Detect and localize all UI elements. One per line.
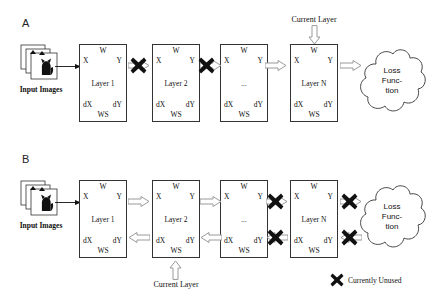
loss-function-text-a: Loss Func- tion [356,66,428,96]
layer-ws-label: WS [291,246,337,255]
layer-dy-label: dY [254,236,263,245]
layer-ws-label: WS [153,110,199,119]
layer-x-label: X [83,192,88,201]
layer-dx-label: dX [156,236,165,245]
layer-y-label: Y [328,56,333,65]
layer-dy-label: dY [254,100,263,109]
panel-b-label: B [22,153,30,165]
layer-dy-label: dY [113,236,122,245]
layer-y-label: Y [117,192,122,201]
layer-w-label: W [291,46,337,55]
current-layer-callout-a: Current Layer [259,15,369,24]
loss-line-3: tion [356,222,428,232]
panel-a-label: A [22,17,30,29]
forward-connector-b-1 [128,196,150,207]
layer-ws-label: WS [221,110,267,119]
x-mark-icon [330,273,344,287]
loss-function-text-b: Loss Func- tion [356,202,428,232]
x-mark-icon [267,229,284,246]
layer-box-a-2: W X Y Layer 2 dX dY WS [152,44,200,122]
layer-dx-label: dX [294,100,303,109]
layer-x-label: X [294,192,299,201]
layer-y-label: Y [190,56,195,65]
layer-y-label: Y [190,192,195,201]
layer-w-label: W [153,182,199,191]
panel-a: A Input Images W X Y [0,0,431,149]
layer-name-label: Layer 1 [80,215,126,224]
loss-line-1: Loss [356,202,428,212]
loss-line-1: Loss [356,66,428,76]
panel-b: B Input Images W X Y Laye [0,149,431,299]
layer-name-label: Layer 1 [80,79,126,88]
layer-dy-label: dY [324,100,333,109]
layer-ws-label: WS [291,110,337,119]
layer-box-b-2: W X Y Layer 2 dX dY WS [152,180,200,258]
input-connector-a [55,63,81,70]
layer-dx-label: dX [83,236,92,245]
x-mark-icon [130,57,147,74]
layer-dx-label: dX [156,100,165,109]
layer-name-label: Layer N [291,79,337,88]
layer-box-b-3: W X Y ... dX dY WS [220,180,268,258]
layer-x-label: X [156,56,161,65]
layer-name-label: ... [221,215,267,224]
layer-dx-label: dX [224,100,233,109]
layer-name-label: Layer 2 [153,215,199,224]
input-connector-b [55,199,81,206]
forward-connector-a-3 [265,60,287,71]
loss-line-2: Func- [356,212,428,222]
layer-dy-label: dY [186,236,195,245]
layer-dx-label: dX [83,100,92,109]
layer-ws-label: WS [80,246,126,255]
input-images-caption-b: Input Images [6,221,76,230]
layer-x-label: X [83,56,88,65]
layer-dx-label: dX [224,236,233,245]
current-layer-arrow-up-b [169,260,182,280]
forward-connector-b-2 [200,196,222,207]
layer-dx-label: dX [294,236,303,245]
layer-y-label: Y [258,56,263,65]
layer-w-label: W [291,182,337,191]
x-mark-icon [267,193,284,210]
layer-w-label: W [221,182,267,191]
layer-name-label: ... [221,79,267,88]
layer-x-label: X [156,192,161,201]
backward-connector-b-2 [200,232,222,243]
layer-box-a-4: W X Y Layer N dX dY WS [290,44,338,122]
layer-ws-label: WS [153,246,199,255]
layer-y-label: Y [258,192,263,201]
layer-y-label: Y [117,56,122,65]
current-layer-callout-b: Current Layer [121,280,231,289]
layer-w-label: W [221,46,267,55]
layer-box-a-3: W X Y ... dX dY WS [220,44,268,122]
layer-w-label: W [80,182,126,191]
layer-x-label: X [294,56,299,65]
layer-box-b-1: W X Y Layer 1 dX dY WS [79,180,127,258]
x-mark-icon [198,57,215,74]
layer-dy-label: dY [113,100,122,109]
layer-y-label: Y [328,192,333,201]
loss-line-2: Func- [356,76,428,86]
current-layer-arrow-down-a [308,25,321,45]
layer-name-label: Layer N [291,215,337,224]
layer-dy-label: dY [324,236,333,245]
input-images-caption-a: Input Images [6,85,76,94]
backward-connector-b-1 [128,232,150,243]
layer-w-label: W [80,46,126,55]
layer-box-a-1: W X Y Layer 1 dX dY WS [79,44,127,122]
layer-ws-label: WS [80,110,126,119]
legend: Currently Unused [330,273,402,287]
layer-box-b-4: W X Y Layer N dX dY WS [290,180,338,258]
layer-name-label: Layer 2 [153,79,199,88]
layer-w-label: W [153,46,199,55]
layer-ws-label: WS [221,246,267,255]
layer-x-label: X [224,192,229,201]
layer-dy-label: dY [186,100,195,109]
loss-line-3: tion [356,86,428,96]
layer-x-label: X [224,56,229,65]
legend-label: Currently Unused [348,276,402,285]
